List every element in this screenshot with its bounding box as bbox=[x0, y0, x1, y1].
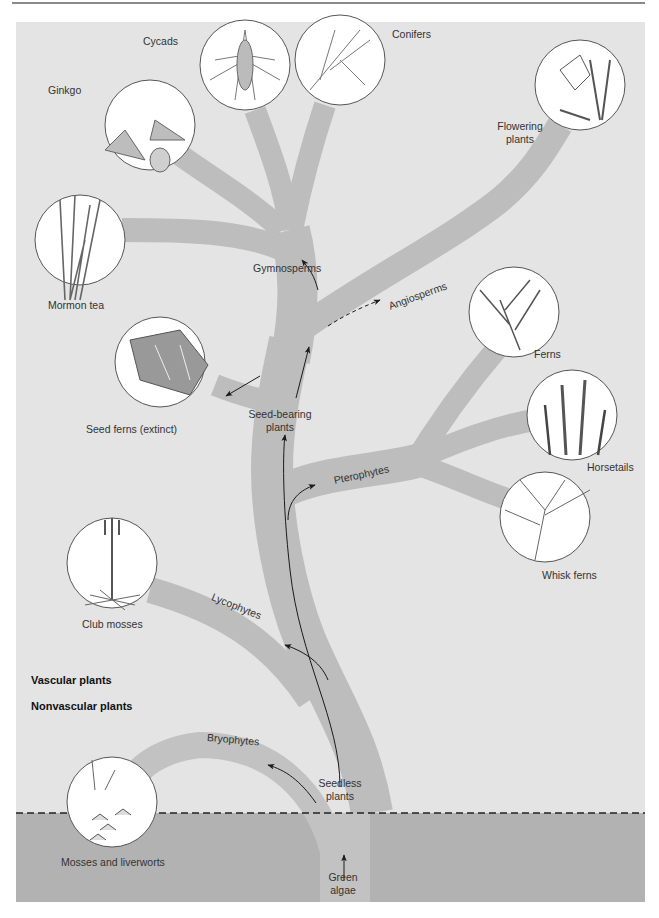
label-mormon-tea: Mormon tea bbox=[48, 299, 104, 312]
mosses-liverworts-illustration bbox=[67, 757, 157, 847]
clade-green-algae: Green algae bbox=[318, 871, 368, 897]
label-ginkgo: Ginkgo bbox=[48, 84, 81, 97]
label-flowering-line-1: Flowering bbox=[497, 120, 543, 132]
label-seed-ferns: Seed ferns (extinct) bbox=[86, 423, 177, 436]
ferns-illustration bbox=[469, 267, 559, 357]
label-ferns: Ferns bbox=[534, 348, 561, 361]
clade-seedless-line-2: plants bbox=[326, 790, 354, 802]
clade-seed-bearing: Seed-bearing plants bbox=[244, 408, 316, 434]
clade-seedless: Seedless plants bbox=[310, 777, 370, 803]
clade-seed-bearing-line-2: plants bbox=[266, 421, 294, 433]
label-horsetails: Horsetails bbox=[587, 461, 634, 474]
clade-root-line-1: Green bbox=[328, 871, 357, 883]
label-conifers: Conifers bbox=[392, 28, 431, 41]
label-cycads: Cycads bbox=[143, 35, 178, 48]
label-flowering-line-2: plants bbox=[506, 133, 534, 145]
clade-seed-bearing-line-1: Seed-bearing bbox=[248, 408, 311, 420]
label-whisk-ferns: Whisk ferns bbox=[542, 569, 597, 582]
clade-root-line-2: algae bbox=[330, 884, 356, 896]
region-label-vascular: Vascular plants bbox=[31, 674, 112, 687]
whisk-ferns-illustration bbox=[500, 472, 590, 562]
label-flowering-plants: Flowering plants bbox=[490, 120, 550, 146]
region-label-nonvascular: Nonvascular plants bbox=[31, 700, 132, 713]
clade-gymnosperms: Gymnosperms bbox=[253, 262, 321, 275]
label-club-mosses: Club mosses bbox=[82, 618, 143, 631]
clade-seedless-line-1: Seedless bbox=[318, 777, 361, 789]
label-mosses-liverworts: Mosses and liverworts bbox=[61, 856, 165, 869]
